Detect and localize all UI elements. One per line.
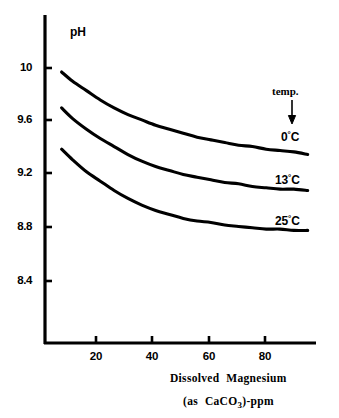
y-axis-title: pH [70,26,86,38]
x-axis-title-formula: CaCO [205,395,238,407]
series-label-0c: 0°C [281,131,299,143]
y-tick-label-8-8: 8.8 [6,221,32,233]
x-tick-label-20: 20 [83,351,109,363]
series-curve-0c [62,72,308,155]
x-axis-title-line1: DissolvedMagnesium [170,373,287,385]
series-label-13c-value: 13 [275,173,288,187]
x-axis-title-word-dissolved: Dissolved [170,372,219,384]
x-axis-title-word-magnesium: Magnesium [226,372,286,384]
y-tick-label-9-2: 9.2 [6,167,32,179]
y-tick-label-10: 10 [6,62,32,74]
plot-canvas [0,0,339,418]
x-axis-title-line2: (asCaCO3)-ppm [183,396,274,410]
temp-arrow-icon [288,100,295,124]
series-label-25c-unit: C [291,214,299,228]
series-label-0c-unit: C [291,130,299,144]
temp-caption-label: temp. [272,86,299,97]
x-axis-title-unit: )-ppm [242,395,274,407]
chart-figure: 10 9.6 9.2 8.8 8.4 pH 20 40 60 80 temp. … [0,0,339,418]
series-curves [62,72,308,231]
x-tick-label-80: 80 [252,351,278,363]
x-tick-label-40: 40 [139,351,165,363]
series-label-25c-value: 25 [275,214,288,228]
series-label-13c-unit: C [291,173,299,187]
y-tick-label-8-4: 8.4 [6,275,32,287]
series-label-25c: 25°C [275,215,300,227]
series-label-13c: 13°C [275,174,300,186]
y-tick-label-9-6: 9.6 [6,114,32,126]
x-tick-label-60: 60 [196,351,222,363]
x-axis-title-paren-open: (as [183,395,198,407]
